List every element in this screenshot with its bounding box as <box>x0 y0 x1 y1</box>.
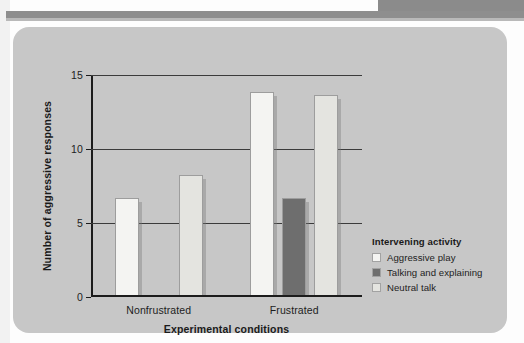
plot-area: 051015 <box>91 75 362 297</box>
y-axis-line <box>91 75 93 297</box>
legend-label: Talking and explaining <box>387 267 483 278</box>
figure-panel: Number of aggressive responses 051015 No… <box>13 27 507 333</box>
x-axis-title: Experimental conditions <box>91 323 362 335</box>
bar <box>115 198 139 296</box>
bar-fill <box>250 92 274 295</box>
page-header-rule-shadow <box>6 18 524 21</box>
bar <box>314 95 338 295</box>
y-axis-tick-label: 10 <box>71 143 83 155</box>
chart-legend: Intervening activity Aggressive playTalk… <box>372 236 502 297</box>
y-axis-tick <box>86 223 91 224</box>
x-axis-tick-label: Frustrated <box>234 304 354 316</box>
y-axis-tick-label: 15 <box>71 69 83 81</box>
bar-fill <box>115 198 139 296</box>
legend-swatch <box>372 283 381 292</box>
y-axis-title-text: Number of aggressive responses <box>41 101 53 271</box>
gridline <box>91 75 362 76</box>
y-axis-tick <box>86 297 91 298</box>
bar-fill <box>179 175 203 295</box>
legend-item: Neutral talk <box>372 282 502 293</box>
legend-title: Intervening activity <box>372 236 502 247</box>
y-axis-tick <box>86 149 91 150</box>
legend-label: Neutral talk <box>387 282 436 293</box>
bar-fill <box>314 95 338 295</box>
y-axis-tick-label: 0 <box>77 291 83 303</box>
bar-shadow <box>306 202 309 296</box>
x-axis-tick-label: Nonfrustrated <box>99 304 219 316</box>
legend-swatch <box>372 268 381 277</box>
y-axis-tick <box>86 75 91 76</box>
bar-fill <box>282 198 306 296</box>
page-left-margin <box>0 0 10 343</box>
bar <box>250 92 274 295</box>
scanned-page: Number of aggressive responses 051015 No… <box>0 0 524 343</box>
bar-shadow <box>338 99 341 295</box>
legend-item: Aggressive play <box>372 252 502 263</box>
bar <box>282 198 306 296</box>
y-axis-title: Number of aggressive responses <box>39 75 55 297</box>
bar-shadow <box>203 179 206 295</box>
x-axis-line <box>91 295 362 297</box>
legend-item: Talking and explaining <box>372 267 502 278</box>
legend-label: Aggressive play <box>387 252 455 263</box>
bar-shadow <box>274 96 277 295</box>
bar-shadow <box>139 202 142 296</box>
y-axis-tick-label: 5 <box>77 217 83 229</box>
legend-items: Aggressive playTalking and explainingNeu… <box>372 252 502 293</box>
bar <box>179 175 203 295</box>
legend-swatch <box>372 253 381 262</box>
